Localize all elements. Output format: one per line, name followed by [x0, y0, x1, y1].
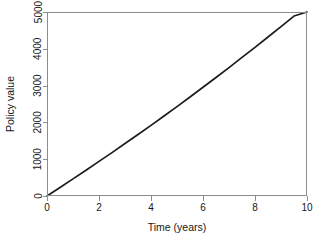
policy-value-line-chart: 010002000300040005000 0246810 Time (year…: [0, 0, 322, 242]
x-tick-label: 10: [301, 202, 313, 213]
x-tick-label: 0: [44, 202, 50, 213]
chart-figure: 010002000300040005000 0246810 Time (year…: [0, 0, 322, 242]
y-axis-title: Policy value: [4, 76, 16, 132]
x-axis-title: Time (years): [148, 221, 207, 233]
y-tick-label: 3000: [33, 74, 44, 97]
y-tick-label: 1000: [33, 148, 44, 171]
y-axis: 010002000300040005000: [33, 0, 48, 198]
x-tick-label: 6: [200, 202, 206, 213]
y-tick-label: 0: [33, 193, 44, 199]
y-tick-label: 2000: [33, 111, 44, 134]
x-tick-label: 2: [96, 202, 102, 213]
y-tick-label: 5000: [33, 0, 44, 23]
x-axis: 0246810: [44, 196, 313, 213]
x-tick-label: 4: [148, 202, 154, 213]
x-tick-label: 8: [252, 202, 258, 213]
plot-area-background: [47, 12, 307, 196]
y-tick-label: 4000: [33, 37, 44, 60]
